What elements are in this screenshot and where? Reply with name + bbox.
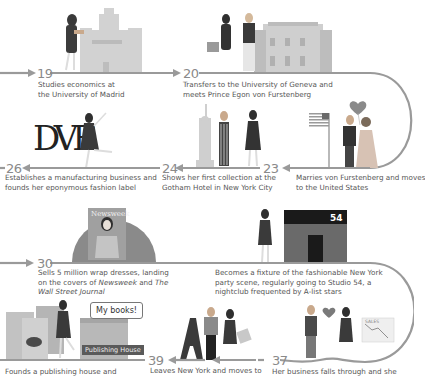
desc-line: Marries von Furstenberg and moves: [296, 173, 425, 183]
event-description-publishing: Founds a publishing house and: [5, 367, 117, 376]
event-description-24: Shows her first collection at the Gotham…: [162, 173, 276, 192]
desc-line: Establishes a manufacturing business and: [5, 173, 157, 183]
wsj-title-part: The: [155, 278, 168, 287]
age-label-20: 20: [183, 67, 199, 80]
fashion-figures-24: [219, 110, 261, 166]
desc-line: on the covers of Newsweek and The: [38, 278, 169, 288]
woman-figure-54: [258, 209, 272, 262]
wedding-couple: [343, 115, 378, 168]
us-flag: [309, 113, 329, 168]
arrow-icon: [168, 356, 176, 364]
desc-line: Wall Street Journal: [38, 287, 169, 297]
desc-line: Her business falls through and she: [272, 367, 397, 376]
desc-line: Becomes a fixture of the fashionable New…: [215, 268, 383, 278]
speech-bubble: My books!: [90, 302, 143, 319]
event-description-20: Transfers to the University of Geneva an…: [183, 80, 333, 99]
event-description-19: Studies economics at the University of M…: [38, 80, 125, 99]
eiffel-tower: [180, 318, 203, 360]
studio-54-building: 54: [284, 210, 347, 263]
couple-figure-20: [207, 13, 255, 71]
event-description-30: Sells 5 million wrap dresses, landing on…: [38, 268, 169, 297]
castle-illustration: [80, 8, 142, 73]
event-description-23: Marries von Furstenberg and moves to the…: [296, 173, 425, 192]
newsweek-title: Newsweek: [99, 278, 137, 287]
desc-line: party scene, regularly going to Studio 5…: [215, 278, 383, 288]
heartbreak-scene: [305, 305, 394, 358]
event-description-39: Leaves New York and moves to: [150, 366, 262, 376]
desc-line: Leaves New York and moves to: [150, 366, 262, 376]
timeline-curve: [370, 73, 411, 168]
couple-figure-39: [204, 307, 252, 360]
desc-line: founds her eponymous fashion label: [5, 183, 157, 193]
heart-balloon: [350, 101, 367, 115]
geneva-building: [254, 22, 332, 73]
desc-line: the University of Madrid: [38, 90, 125, 100]
desc-line: Founds a publishing house and: [5, 367, 117, 376]
newsweek-cover: Newsweek: [88, 208, 130, 260]
desc-line: to the United States: [296, 183, 425, 193]
publishing-house-sign: Publishing House: [82, 345, 144, 355]
svg-text:Newsweek: Newsweek: [91, 210, 130, 218]
desc-line: Transfers to the University of Geneva an…: [183, 80, 333, 90]
desc-line: Studies economics at: [38, 80, 125, 90]
age-label-37: 37: [272, 354, 288, 367]
desc-line: meets Prince Egon von Furstenberg: [183, 90, 333, 100]
age-label-19: 19: [37, 67, 53, 80]
wsj-title-part: Wall Street Journal: [38, 287, 105, 296]
desc-line: Gotham Hotel in New York City: [162, 183, 276, 193]
statue-of-liberty: [196, 104, 214, 168]
sales-chart-label: SALES: [365, 319, 379, 324]
desc-text: and: [137, 278, 155, 287]
desc-text: on the covers of: [38, 278, 99, 287]
svg-text:54: 54: [330, 213, 343, 223]
arrow-icon: [173, 69, 181, 77]
arrow-icon: [28, 69, 36, 77]
desc-line: nightclub frequented by A-list stars: [215, 287, 383, 297]
arrow-icon: [282, 164, 290, 172]
event-description-26: Establishes a manufacturing business and…: [5, 173, 157, 192]
arrow-icon: [26, 259, 34, 267]
event-description-37: Her business falls through and she: [272, 367, 397, 376]
arrow-icon: [22, 164, 30, 172]
event-description-studio54: Becomes a fixture of the fashionable New…: [215, 268, 383, 297]
desc-line: Sells 5 million wrap dresses, landing: [38, 268, 169, 278]
books-illustration: [6, 306, 64, 360]
desc-line: Shows her first collection at the: [162, 173, 276, 183]
